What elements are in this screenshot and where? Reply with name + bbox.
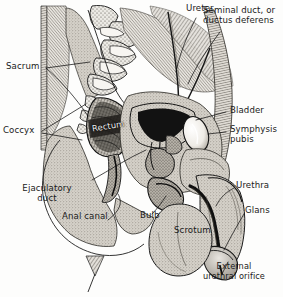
label-ejaculatory-line1: Ejaculatory: [22, 183, 71, 193]
label-symphysis-line2: pubis: [230, 134, 254, 144]
label-external-urethral-orifice: Externalurethral orifice: [186, 262, 282, 281]
label-seminal-duct: Seminal duct, orductus deferens: [203, 6, 275, 25]
label-glans: Glans: [245, 206, 270, 216]
label-symphysis-pubis: Symphysispubis: [230, 125, 277, 144]
label-coccyx: Coccyx: [3, 126, 34, 136]
label-ext-orifice-line2: urethral orifice: [203, 271, 265, 281]
label-seminal-duct-line1: Seminal duct, or: [203, 5, 275, 15]
label-ejaculatory-line2: duct: [37, 193, 56, 203]
label-ejaculatory-duct: Ejaculatoryduct: [16, 184, 78, 203]
label-scrotum: Scrotum: [174, 226, 211, 236]
label-ext-orifice-line1: External: [217, 261, 252, 271]
label-bladder: Bladder: [230, 106, 264, 116]
label-sacrum: Sacrum: [6, 62, 39, 72]
label-anal-canal: Anal canal: [62, 212, 108, 222]
label-seminal-duct-line2: ductus deferens: [203, 15, 274, 25]
label-bulb: Bulb: [140, 211, 160, 221]
anatomical-figure: Ureter Seminal duct, orductus deferens S…: [0, 0, 283, 297]
label-urethra: Urethra: [236, 181, 269, 191]
pelvis-sagittal-illustration: [0, 0, 283, 297]
label-symphysis-line1: Symphysis: [230, 124, 277, 134]
